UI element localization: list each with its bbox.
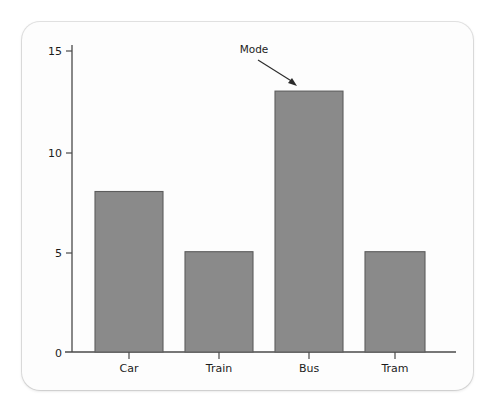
chart-screenshot-root: 15 10 5 0 Car Train Bus Tram — [0, 0, 496, 408]
mode-annotation-arrow-line — [258, 60, 293, 82]
bar-train — [185, 252, 253, 352]
x-axis-ticks: Car Train Bus Tram — [120, 352, 409, 375]
bar-chart-figure: 15 10 5 0 Car Train Bus Tram — [0, 0, 496, 408]
bar-car — [95, 192, 163, 353]
bars-group — [95, 91, 425, 352]
y-axis-ticks: 15 10 5 0 — [48, 45, 72, 360]
y-tick-label-0: 0 — [55, 347, 62, 360]
x-tick-label-train: Train — [205, 362, 232, 375]
x-tick-label-car: Car — [120, 362, 139, 375]
x-tick-label-tram: Tram — [380, 362, 408, 375]
mode-annotation-label: Mode — [240, 43, 269, 55]
bar-tram — [365, 252, 425, 352]
y-tick-label-5: 5 — [55, 247, 62, 260]
y-tick-label-10: 10 — [48, 147, 62, 160]
y-tick-label-15: 15 — [48, 45, 62, 58]
x-tick-label-bus: Bus — [299, 362, 320, 375]
bar-bus — [275, 91, 343, 352]
mode-annotation: Mode — [240, 43, 297, 86]
